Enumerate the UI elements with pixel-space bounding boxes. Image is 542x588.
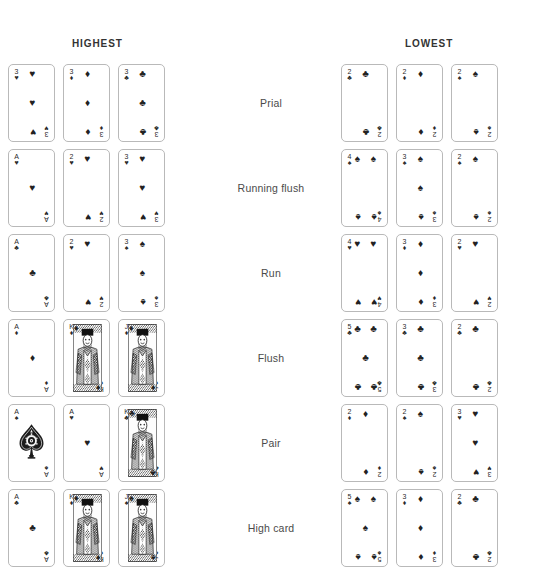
card-suit-diamond-icon: ♦ — [151, 383, 156, 392]
card-suit-heart-icon: ♥ — [473, 297, 479, 307]
card-suit-heart-icon: ♥ — [355, 297, 361, 307]
hand-highest: 3♥3♥♥♥♥3♦3♦♦♦♦3♣3♣♣♣♣ — [8, 64, 165, 142]
card-suit-spade-icon: ♠ — [473, 154, 478, 164]
playing-card: 3♠3♠♠♠♠ — [396, 149, 443, 227]
card-pip-field: ♥ — [75, 408, 100, 478]
card-pip-field: ♥♥♥♥ — [353, 238, 378, 308]
card-suit-spade-icon: ♠ — [418, 409, 423, 419]
card-suit-diamond-icon: ♦ — [418, 127, 423, 137]
court-card-illustration — [73, 324, 102, 392]
playing-card: A♥A♥♥ — [8, 149, 55, 227]
court-card-illustration — [128, 409, 157, 477]
card-suit-spade-icon: ♠ — [418, 212, 423, 222]
card-suit-club-icon: ♣ — [362, 69, 369, 79]
card-suit-diamond-icon: ♦ — [85, 98, 90, 108]
card-suit-diamond-icon: ♦ — [418, 239, 423, 249]
playing-card: 2♣2♣♣♣ — [451, 319, 498, 397]
card-suit-spade-icon: ♠ — [355, 154, 360, 164]
card-suit-spade-icon: ♠ — [355, 552, 360, 562]
card-suit-heart-icon: ♥ — [140, 154, 146, 164]
card-suit-diamond-icon: ♦ — [418, 268, 423, 278]
rank-row: A♥A♥♥2♥2♥♥♥3♥3♥♥♥♥4♠4♠♠♠♠♠3♠3♠♠♠♠2♠2♠♠♠R… — [0, 149, 542, 227]
card-pip-field: ♥♥♥ — [130, 153, 155, 223]
hand-lowest: 4♥4♥♥♥♥♥3♦3♦♦♦♦2♥2♥♥♥ — [341, 234, 498, 312]
card-suit-diamond-icon: ♦ — [418, 69, 423, 79]
playing-card: 2♥2♥♥♥ — [63, 234, 110, 312]
card-suit-spade-icon: ♠ — [473, 127, 478, 137]
card-pip-field: ♥♥ — [463, 238, 488, 308]
playing-card: J♦J♦♦♦ — [118, 319, 165, 397]
card-rank-label: A — [42, 471, 51, 478]
card-suit-spade-icon: ♠ — [371, 212, 376, 222]
card-suit-heart-icon: ♥ — [30, 69, 36, 79]
card-suit-heart-icon: ♥ — [30, 127, 36, 137]
playing-card: 3♦3♦♦♦♦ — [396, 489, 443, 567]
court-card-illustration — [128, 324, 157, 392]
card-suit-heart-icon: ♥ — [85, 438, 91, 448]
card-suit-diamond-icon: ♦ — [363, 467, 368, 477]
card-pip-field: ♥♥ — [75, 238, 100, 308]
card-suit-club-icon: ♣ — [139, 69, 146, 79]
card-pip-field: ♣♣ — [353, 68, 378, 138]
card-suit-diamond-icon: ♦ — [85, 69, 90, 79]
court-card-illustration — [128, 494, 157, 562]
card-suit-club-icon: ♣ — [370, 382, 377, 392]
playing-card: 3♣3♣♣♣♣ — [118, 64, 165, 142]
card-suit-club-icon: ♣ — [150, 468, 156, 477]
card-suit-spade-icon: ♠ — [371, 154, 376, 164]
hand-lowest: 2♦2♦♦♦2♠2♠♠♠3♥3♥♥♥♥ — [341, 404, 498, 482]
playing-card: 2♠2♠♠♠ — [396, 404, 443, 482]
card-suit-spade-icon: ♠ — [129, 494, 134, 503]
rank-row: A♣A♣♣2♥2♥♥♥3♠3♠♠♠♠4♥4♥♥♥♥♥3♦3♦♦♦♦2♥2♥♥♥R… — [0, 234, 542, 312]
playing-card: A♥A♥♥ — [63, 404, 110, 482]
card-pip-field: ♠♠♠♠ — [353, 153, 378, 223]
card-suit-heart-icon: ♥ — [85, 297, 91, 307]
court-card-illustration — [73, 494, 102, 562]
card-suit-club-icon: ♣ — [472, 382, 479, 392]
rank-row: A♦A♦♦K♦K♦♦♦J♦J♦♦♦5♣5♣♣♣♣♣♣3♣3♣♣♣♣2♣2♣♣♣F… — [0, 319, 542, 397]
playing-card: 3♦3♦♦♦♦ — [396, 234, 443, 312]
card-pip-field: ♣♣♣ — [130, 68, 155, 138]
column-header-lowest: LOWEST — [405, 38, 453, 49]
card-suit-spade-icon: ♠ — [355, 494, 360, 504]
card-suit-heart-icon: ♥ — [140, 183, 146, 193]
card-suit-spade-icon: ♠ — [418, 183, 423, 193]
card-suit-heart-icon: ♥ — [85, 154, 91, 164]
card-suit-club-icon: ♣ — [139, 98, 146, 108]
card-pip-field: ♥♥♥ — [463, 408, 488, 478]
playing-card: K♣K♣♣♣ — [118, 404, 165, 482]
card-pip-field: ♦♦ — [408, 68, 433, 138]
card-suit-heart-icon: ♥ — [473, 409, 479, 419]
card-suit-diamond-icon: ♦ — [74, 494, 79, 503]
card-suit-diamond-icon: ♦ — [418, 552, 423, 562]
card-pip-field: ♠♠ — [463, 68, 488, 138]
playing-card: 3♥3♥♥♥♥ — [451, 404, 498, 482]
card-suit-diamond-icon: ♦ — [363, 409, 368, 419]
playing-card: K♦K♦♦♦ — [63, 319, 110, 397]
card-suit-club-icon: ♣ — [362, 353, 369, 363]
playing-card: 3♠3♠♠♠♠ — [118, 234, 165, 312]
card-pip-field: ♣ — [20, 238, 45, 308]
card-suit-diamond-icon: ♦ — [96, 383, 101, 392]
card-pip-field: ♥♥ — [75, 153, 100, 223]
card-pip-field: ♠♠ — [408, 408, 433, 478]
playing-card: 2♦2♦♦♦ — [341, 404, 388, 482]
card-suit-club-icon: ♣ — [362, 127, 369, 137]
card-suit-heart-icon: ♥ — [85, 212, 91, 222]
hand-highest: A♠A♠A♥A♥♥K♣K♣♣♣ — [8, 404, 165, 482]
card-suit-spade-icon: ♠ — [140, 239, 145, 249]
card-suit-spade-icon: ♠ — [363, 523, 368, 533]
card-pip-field: ♣♣ — [463, 493, 488, 563]
card-suit-club-icon: ♣ — [29, 268, 36, 278]
playing-card: J♠J♠♠♠ — [118, 489, 165, 567]
hand-lowest: 4♠4♠♠♠♠♠3♠3♠♠♠♠2♠2♠♠♠ — [341, 149, 498, 227]
card-suit-heart-icon: ♥ — [140, 212, 146, 222]
playing-card: 2♠2♠♠♠ — [451, 64, 498, 142]
hand-lowest: 5♠5♠♠♠♠♠♠3♦3♦♦♦♦2♣2♣♣♣ — [341, 489, 498, 567]
card-suit-spade-icon: ♠ — [371, 494, 376, 504]
card-suit-club-icon: ♣ — [139, 127, 146, 137]
card-suit-heart-icon: ♥ — [30, 183, 36, 193]
card-suit-club-icon: ♣ — [417, 382, 424, 392]
hand-ranking-chart: HIGHEST LOWEST 3♥3♥♥♥♥3♦3♦♦♦♦3♣3♣♣♣♣2♣2♣… — [0, 0, 542, 588]
playing-card: 3♣3♣♣♣♣ — [396, 319, 443, 397]
